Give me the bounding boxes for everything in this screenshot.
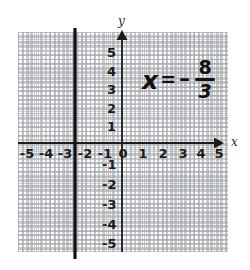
y-tick-neg2: -2 xyxy=(102,178,116,191)
y-tick-neg5: -5 xyxy=(102,237,116,250)
equation-numerator: 8 xyxy=(198,58,211,77)
y-tick-neg1: -1 xyxy=(102,158,116,171)
x-tick-neg2: -2 xyxy=(78,147,92,160)
graph-figure: x y -5 -4 -3 -2 -1 0 1 2 3 4 5 5 4 3 2 1… xyxy=(0,0,250,270)
equation-minus-sign: – xyxy=(179,66,190,91)
x-tick-2: 2 xyxy=(158,147,167,160)
y-axis-arrowhead xyxy=(117,30,128,40)
x-tick-1: 1 xyxy=(138,147,147,160)
x-axis-label: x xyxy=(231,135,238,149)
coordinate-axes xyxy=(0,0,250,270)
x-tick-5: 5 xyxy=(214,147,223,160)
x-tick-neg3: -3 xyxy=(58,147,72,160)
equation-denominator: 3 xyxy=(198,82,211,101)
equation-annotation: x = – 8 3 xyxy=(142,58,215,102)
y-tick-neg4: -4 xyxy=(102,218,116,231)
equation-equals-sign: = xyxy=(160,68,176,90)
equation-variable: x xyxy=(142,66,157,95)
y-tick-1: 1 xyxy=(107,120,116,133)
y-tick-4: 4 xyxy=(107,65,116,78)
y-axis-label: y xyxy=(118,14,125,28)
x-tick-4: 4 xyxy=(196,147,205,160)
y-tick-neg3: -3 xyxy=(102,198,116,211)
x-tick-origin: 0 xyxy=(118,147,127,160)
y-tick-5: 5 xyxy=(107,46,116,59)
equation-fraction: 8 3 xyxy=(195,58,215,101)
x-tick-neg4: -4 xyxy=(39,147,53,160)
x-tick-neg5: -5 xyxy=(20,147,34,160)
y-tick-3: 3 xyxy=(107,83,116,96)
x-tick-3: 3 xyxy=(178,147,187,160)
y-tick-2: 2 xyxy=(107,102,116,115)
